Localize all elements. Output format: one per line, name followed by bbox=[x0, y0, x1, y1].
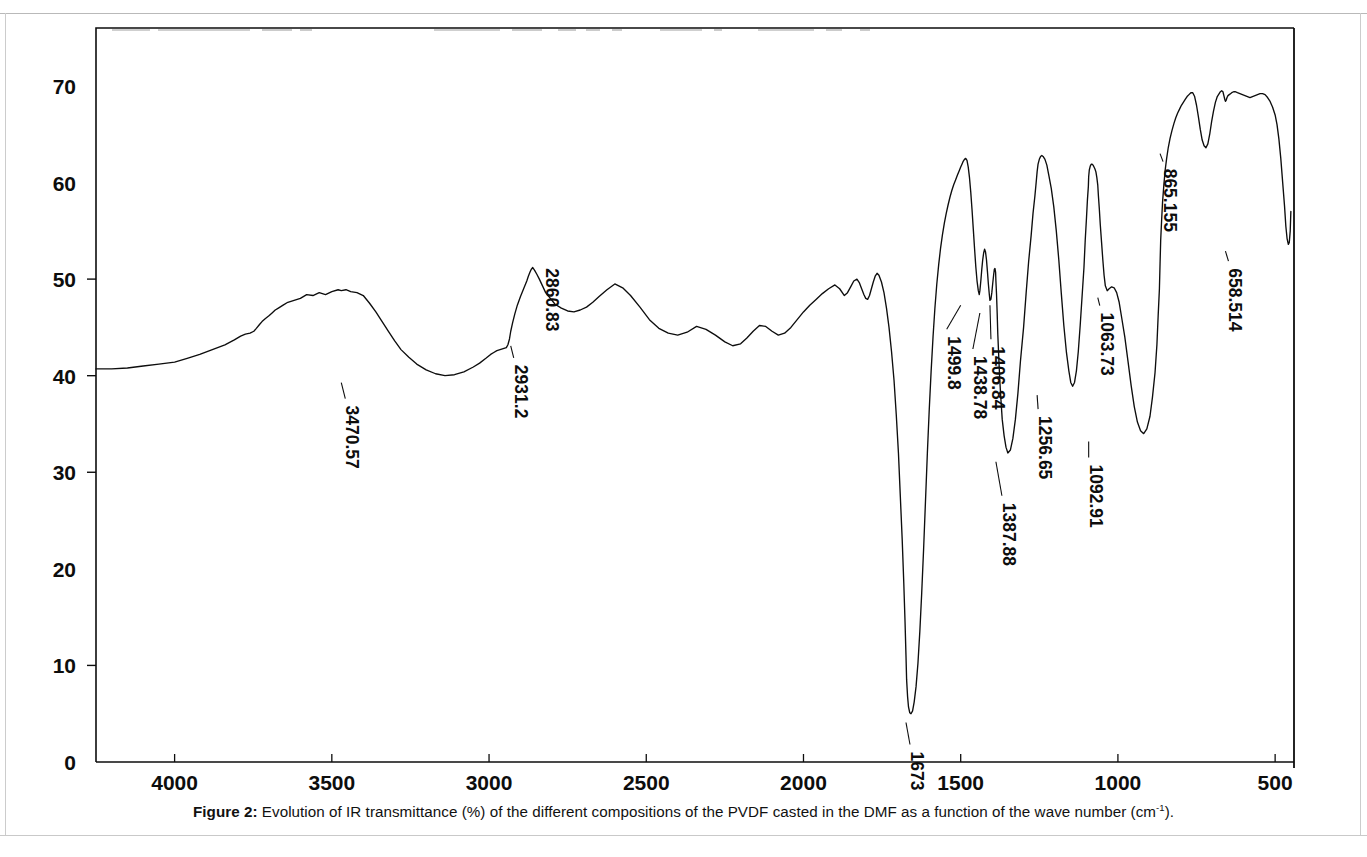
peak-label: 865.155 bbox=[1160, 169, 1180, 233]
peak-annotations: 3470.572931.22860.831673.561499.81438.78… bbox=[341, 154, 1245, 790]
peak-label: 2931.2 bbox=[511, 365, 531, 419]
figure-caption-text: Evolution of IR transmittance (%) of the… bbox=[258, 803, 1157, 820]
x-axis-tick-label: 2500 bbox=[623, 771, 670, 790]
x-axis-tick-labels: 4000350030002500200015001000500 bbox=[151, 771, 1292, 790]
peak-leader-line bbox=[906, 723, 910, 745]
y-axis-tick-label: 30 bbox=[53, 461, 76, 484]
peak-label: 3470.57 bbox=[342, 406, 362, 469]
peak-leader-line bbox=[1037, 395, 1038, 409]
x-axis-tick-label: 1500 bbox=[937, 771, 984, 790]
ir-spectrum-plot: 3470.572931.22860.831673.561499.81438.78… bbox=[0, 0, 1367, 790]
spectrum-trace bbox=[96, 91, 1291, 714]
peak-label: 1387.88 bbox=[999, 503, 1019, 567]
peak-label: 1092.91 bbox=[1086, 464, 1106, 528]
peak-leader-line bbox=[947, 305, 961, 329]
peak-label: 1499.8 bbox=[944, 336, 964, 390]
peak-label: 1438.78 bbox=[970, 356, 990, 420]
figure-caption-superscript: -1 bbox=[1156, 802, 1165, 813]
peak-label: 2860.83 bbox=[542, 268, 562, 332]
peak-leader-line bbox=[1225, 251, 1228, 261]
figure-caption: Figure 2: Evolution of IR transmittance … bbox=[0, 798, 1367, 822]
y-axis-tick-label: 0 bbox=[64, 751, 76, 774]
y-axis-tick-label: 50 bbox=[53, 268, 76, 291]
figure-page: 3470.572931.22860.831673.561499.81438.78… bbox=[0, 0, 1367, 857]
y-axis-tick-label: 70 bbox=[53, 75, 76, 98]
peak-label: 658.514 bbox=[1225, 268, 1245, 332]
peak-leader-line bbox=[1098, 298, 1100, 306]
peak-leader-line bbox=[973, 313, 980, 349]
y-axis-tick-label: 40 bbox=[53, 365, 76, 388]
peak-label: 1256.65 bbox=[1035, 416, 1055, 480]
spectrum-svg: 3470.572931.22860.831673.561499.81438.78… bbox=[0, 0, 1367, 790]
y-axis-tick-labels: 010203040506070 bbox=[53, 75, 76, 774]
figure-caption-tail: ). bbox=[1165, 803, 1174, 820]
peak-label: 1673.56 bbox=[907, 752, 927, 790]
peak-leader-line bbox=[341, 383, 345, 399]
peak-label: 1063.73 bbox=[1097, 313, 1117, 377]
page-edge-bottom bbox=[0, 835, 1367, 836]
x-axis-tick-label: 2000 bbox=[780, 771, 827, 790]
peak-leader-line bbox=[990, 305, 991, 339]
plot-axes bbox=[87, 28, 1294, 768]
y-axis-tick-label: 20 bbox=[53, 558, 76, 581]
plot-frame-left-top bbox=[96, 28, 1294, 762]
peak-leader-line bbox=[996, 462, 1002, 496]
y-axis-tick-label: 60 bbox=[53, 172, 76, 195]
spectrum-curve bbox=[96, 91, 1291, 714]
x-axis-tick-label: 3000 bbox=[466, 771, 513, 790]
peak-leader-line bbox=[511, 346, 514, 358]
figure-caption-label: Figure 2: bbox=[193, 803, 258, 820]
x-axis-tick-label: 4000 bbox=[151, 771, 198, 790]
peak-label: 1406.84 bbox=[988, 346, 1008, 410]
peak-leader-line bbox=[1160, 154, 1163, 162]
x-axis-tick-label: 1000 bbox=[1095, 771, 1142, 790]
x-axis-tick-label: 3500 bbox=[308, 771, 355, 790]
y-axis-tick-label: 10 bbox=[53, 654, 76, 677]
x-axis-tick-label: 500 bbox=[1258, 771, 1293, 790]
